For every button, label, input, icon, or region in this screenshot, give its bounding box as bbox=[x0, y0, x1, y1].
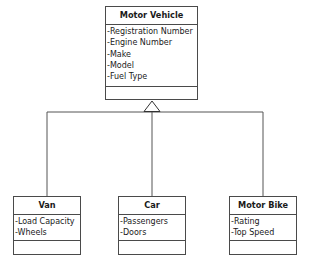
class-name: Motor Vehicle bbox=[106, 7, 197, 25]
class-van[interactable]: Van -Load Capacity -Wheels bbox=[13, 196, 81, 255]
attribute: -Rating bbox=[231, 216, 296, 227]
attribute: -Engine Number bbox=[107, 37, 197, 48]
attribute: -Doors bbox=[120, 227, 185, 238]
class-motor-bike[interactable]: Motor Bike -Rating -Top Speed bbox=[229, 196, 297, 255]
attribute: -Load Capacity bbox=[15, 216, 80, 227]
class-attributes: -Passengers -Doors bbox=[119, 215, 185, 241]
attribute: -Registration Number bbox=[107, 26, 197, 37]
class-operations bbox=[119, 241, 185, 254]
class-name: Motor Bike bbox=[230, 197, 296, 215]
attribute: -Model bbox=[107, 60, 197, 71]
class-attributes: -Rating -Top Speed bbox=[230, 215, 296, 241]
attribute: -Make bbox=[107, 49, 197, 60]
class-name: Car bbox=[119, 197, 185, 215]
generalization-arrow-icon bbox=[144, 101, 160, 112]
class-name: Van bbox=[14, 197, 80, 215]
class-motor-vehicle[interactable]: Motor Vehicle -Registration Number -Engi… bbox=[105, 6, 198, 100]
class-attributes: -Registration Number -Engine Number -Mak… bbox=[106, 25, 197, 87]
class-attributes: -Load Capacity -Wheels bbox=[14, 215, 80, 241]
class-operations bbox=[230, 241, 296, 254]
attribute: -Fuel Type bbox=[107, 71, 197, 82]
attribute: -Passengers bbox=[120, 216, 185, 227]
class-operations bbox=[14, 241, 80, 254]
class-car[interactable]: Car -Passengers -Doors bbox=[118, 196, 186, 255]
attribute: -Wheels bbox=[15, 227, 80, 238]
class-operations bbox=[106, 87, 197, 99]
attribute: -Top Speed bbox=[231, 227, 296, 238]
